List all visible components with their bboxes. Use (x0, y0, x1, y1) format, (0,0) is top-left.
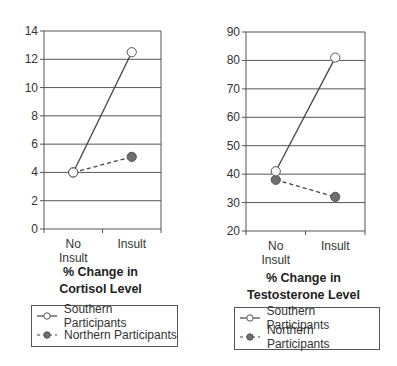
northern-data-point (271, 175, 280, 184)
legend-item-northern: Northern Participants (32, 325, 177, 344)
x-category-label: Insult (261, 253, 290, 267)
testosterone-legend: Southern Participants Northern Participa… (234, 307, 380, 350)
y-tick-label: 60 (227, 110, 241, 124)
filled-circle-marker-icon (36, 330, 58, 340)
southern-data-point (127, 48, 136, 57)
southern-data-point (69, 168, 78, 177)
cortisol-chart: 02468101214NoInsultInsult% Change inCort… (0, 0, 200, 300)
legend-item-northern: Northern Participants (235, 327, 379, 346)
y-tick-label: 2 (31, 194, 38, 208)
filled-circle-marker-icon (239, 332, 261, 342)
y-tick-label: 0 (31, 222, 38, 236)
legend-item-southern: Southern Participants (32, 306, 177, 325)
southern-series-line (276, 58, 336, 172)
chart-title: % Change in (63, 265, 138, 279)
x-category-label: Insult (117, 237, 146, 251)
chart-title: Cortisol Level (59, 282, 142, 296)
y-tick-label: 90 (227, 25, 241, 39)
southern-data-point (331, 53, 340, 62)
chart-title: % Change in (266, 271, 341, 285)
y-tick-label: 4 (31, 165, 38, 179)
open-circle-marker-icon (36, 311, 58, 321)
y-tick-label: 80 (227, 53, 241, 67)
x-category-label: Insult (321, 239, 350, 253)
testosterone-chart: 2030405060708090NoInsultInsult% Change i… (200, 0, 397, 305)
x-category-label: No (268, 239, 284, 253)
x-category-label: No (66, 237, 82, 251)
y-tick-label: 6 (31, 137, 38, 151)
legend-label-southern: Southern Participants (64, 302, 177, 330)
southern-series-line (73, 52, 132, 172)
y-tick-label: 10 (25, 81, 39, 95)
y-tick-label: 70 (227, 82, 241, 96)
northern-data-point (127, 152, 136, 161)
legend-label-northern: Northern Participants (64, 328, 177, 342)
northern-series-line (276, 180, 336, 197)
y-tick-label: 12 (25, 52, 39, 66)
y-tick-label: 50 (227, 139, 241, 153)
testosterone-chart-panel: 2030405060708090NoInsultInsult% Change i… (200, 0, 397, 366)
northern-series-line (73, 157, 132, 173)
y-tick-label: 20 (227, 224, 241, 238)
open-circle-marker-icon (239, 313, 261, 323)
legend-label-northern: Northern Participants (267, 323, 379, 351)
northern-data-point (331, 192, 340, 201)
chart-title: Testosterone Level (247, 288, 360, 302)
y-tick-label: 8 (31, 109, 38, 123)
cortisol-chart-panel: 02468101214NoInsultInsult% Change inCort… (0, 0, 200, 366)
y-tick-label: 14 (25, 24, 39, 38)
y-tick-label: 30 (227, 196, 241, 210)
x-category-label: Insult (59, 251, 88, 265)
cortisol-legend: Southern Participants Northern Participa… (31, 305, 178, 347)
y-tick-label: 40 (227, 167, 241, 181)
southern-data-point (271, 167, 280, 176)
